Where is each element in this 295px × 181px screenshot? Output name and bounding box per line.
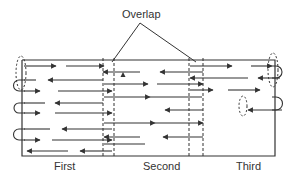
u-turn-loop xyxy=(272,66,282,78)
overlap-zones xyxy=(103,58,203,158)
path-arrows xyxy=(24,66,282,151)
section-label-third: Third xyxy=(236,160,261,172)
triangle-marker-icon xyxy=(121,72,126,77)
dashed-ellipse xyxy=(268,53,278,87)
u-turn-loop xyxy=(272,97,282,110)
pointer-line xyxy=(140,23,196,62)
overlap-label: Overlap xyxy=(122,8,161,20)
section-label-first: First xyxy=(54,160,75,172)
markers xyxy=(121,72,126,77)
u-turn-loop xyxy=(14,103,25,113)
dashed-ellipse xyxy=(16,56,26,90)
diagram-svg xyxy=(0,0,295,181)
pointer-line xyxy=(112,23,140,62)
frame xyxy=(22,60,275,156)
frame-rect xyxy=(22,60,275,156)
section-label-second: Second xyxy=(143,160,180,172)
diagram-canvas: Overlap First Second Third xyxy=(0,0,295,181)
u-turn-loop xyxy=(14,129,26,140)
dashed-ellipse xyxy=(239,96,247,116)
overlap-pointer-lines xyxy=(112,23,196,62)
u-turn-loops xyxy=(14,66,283,140)
